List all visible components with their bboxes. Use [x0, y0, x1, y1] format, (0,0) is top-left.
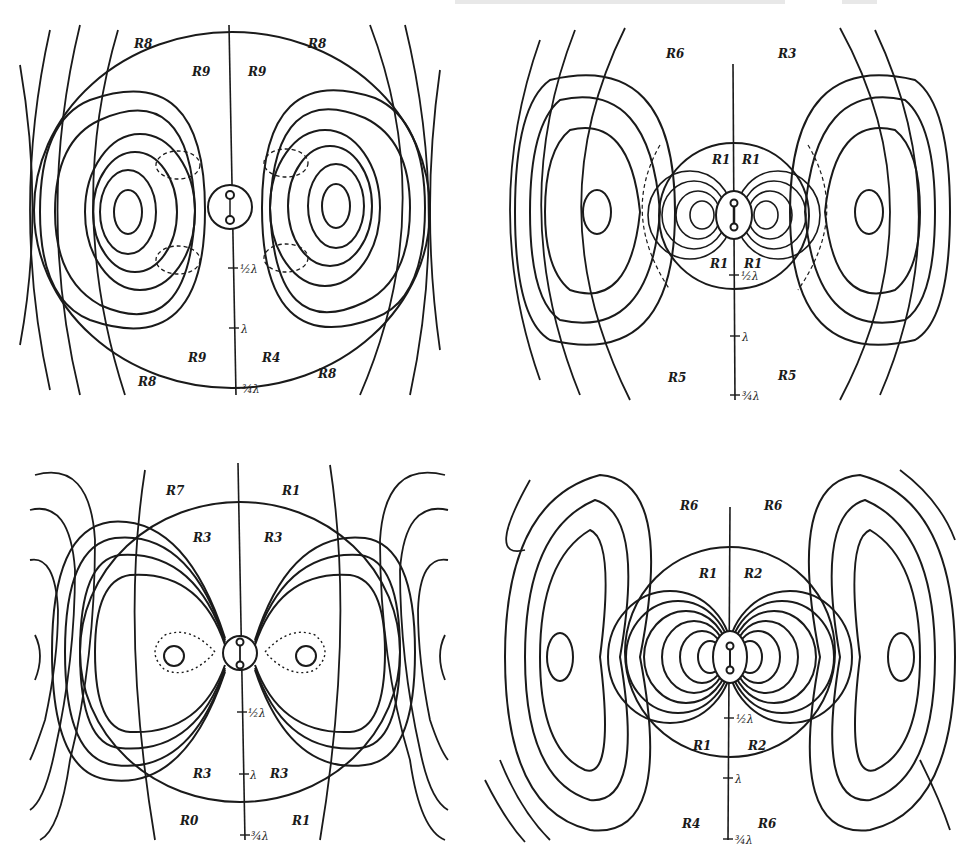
region-label: R1 — [291, 814, 310, 828]
diagram-panel-top-left: ½λ λ ¾λ R8 R8 R9 R9 R9 R4 R8 R8 — [0, 0, 480, 420]
tick-half-lambda: ½λ — [248, 707, 266, 720]
region-label: R8 — [307, 37, 327, 51]
region-label: R3 — [192, 531, 211, 545]
diagram-panel-bottom-left: ½λ λ ¾λ R7 R1 R3 R3 R3 R3 R0 R1 — [0, 430, 480, 852]
region-label: R1 — [692, 739, 711, 753]
region-label: R6 — [757, 817, 777, 831]
region-label: R4 — [681, 817, 700, 831]
region-label: R8 — [137, 375, 157, 389]
region-label: R8 — [133, 37, 153, 51]
region-label: R6 — [679, 499, 699, 513]
left-field-loops — [40, 92, 205, 329]
region-label: R1 — [711, 153, 730, 167]
tick-lambda: λ — [741, 331, 749, 344]
region-label: R9 — [187, 351, 207, 365]
region-label: R3 — [269, 767, 288, 781]
region-label: R3 — [192, 767, 211, 781]
tick-three-quarter-lambda: ¾λ — [242, 383, 260, 396]
region-label: R9 — [247, 65, 267, 79]
tick-three-quarter-lambda: ¾λ — [251, 830, 269, 843]
region-label: R1 — [709, 257, 728, 271]
tick-three-quarter-lambda: ¾λ — [735, 834, 753, 847]
region-label: R8 — [317, 367, 337, 381]
region-label: R1 — [741, 153, 760, 167]
region-label: R2 — [743, 567, 762, 581]
region-label: R6 — [763, 499, 783, 513]
region-label: R7 — [165, 484, 185, 498]
region-label: R1 — [698, 567, 717, 581]
tick-three-quarter-lambda: ¾λ — [742, 390, 760, 403]
right-field-loops — [262, 90, 425, 327]
region-label: R6 — [665, 47, 685, 61]
diagram-panel-bottom-right: ½λ λ ¾λ R6 R6 R1 R2 R1 R2 R4 R6 — [480, 430, 957, 852]
region-label: R3 — [263, 531, 282, 545]
diagram-panel-top-right: ½λ λ ¾λ R6 R3 R1 R1 R1 R1 R5 R5 — [480, 0, 957, 420]
region-label: R0 — [179, 814, 199, 828]
region-label: R1 — [281, 484, 300, 498]
region-label: R3 — [777, 47, 796, 61]
region-label: R9 — [191, 65, 211, 79]
region-label: R5 — [777, 369, 796, 383]
tick-lambda: λ — [240, 323, 248, 336]
tick-half-lambda: ½λ — [240, 263, 258, 276]
tick-lambda: λ — [734, 773, 742, 786]
region-label: R2 — [747, 739, 766, 753]
region-label: R1 — [743, 257, 762, 271]
tick-lambda: λ — [249, 769, 257, 782]
region-label: R5 — [667, 371, 686, 385]
tick-half-lambda: ½λ — [736, 713, 754, 726]
region-label: R4 — [261, 351, 280, 365]
tick-half-lambda: ½λ — [741, 270, 759, 283]
